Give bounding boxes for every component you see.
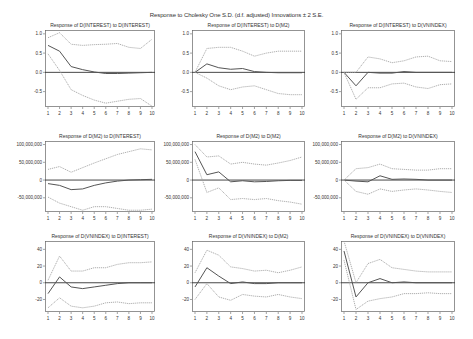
x-tick-label: 9: [139, 216, 142, 221]
x-tick-label: 1: [343, 111, 346, 116]
upper-band-line: [195, 47, 302, 72]
y-tick-label: 40: [333, 247, 339, 252]
panel-title: Response of D(M2) to D(VNINDEX): [341, 133, 455, 139]
x-tick-label: 7: [116, 316, 119, 321]
y-tick-label: 20: [184, 264, 190, 269]
y-tick-label: 0.0: [36, 70, 43, 75]
y-tick-label: 40: [184, 247, 190, 252]
x-tick-label: 8: [427, 111, 430, 116]
x-tick-label: 7: [265, 111, 268, 116]
plot-area: 100,000,00050,000,0000-50,000,0001234567…: [341, 141, 455, 224]
y-tick-label: 1.0: [332, 31, 339, 36]
y-tick-label: 100,000,000: [16, 142, 42, 147]
lower-band-line: [344, 260, 452, 309]
irf-panel-m2-m2: Response of D(M2) to D(M2)100,000,00050,…: [192, 133, 305, 224]
y-tick-label: -0.5: [34, 89, 42, 94]
x-tick-label: 8: [277, 316, 280, 321]
x-tick-label: 1: [343, 316, 346, 321]
y-tick-label: 0: [39, 178, 42, 183]
y-tick-label: 0.0: [183, 70, 190, 75]
irf-panel-vnindex-interest: Response of D(VNINDEX) to D(INTEREST)402…: [45, 233, 155, 324]
irf-panel-interest-m2: Response of D(INTEREST) to D(M2)1.00.50.…: [192, 22, 305, 119]
plot-frame: [46, 142, 155, 212]
y-tick-label: -50,000,000: [164, 195, 189, 200]
plot-frame: [193, 31, 305, 107]
y-tick-label: -0.5: [181, 89, 189, 94]
x-tick-label: 2: [355, 216, 358, 221]
y-tick-label: -20: [35, 297, 42, 302]
lower-band-line: [48, 298, 152, 308]
x-tick-label: 2: [206, 216, 209, 221]
x-tick-label: 6: [253, 111, 256, 116]
x-tick-label: 7: [265, 216, 268, 221]
y-tick-label: 20: [333, 264, 339, 269]
x-tick-label: 8: [128, 316, 131, 321]
irf-panel-vnindex-vnindex: Response of D(VNINDEX) to D(VNINDEX)4020…: [341, 233, 455, 324]
plot-area: 1.00.50.0-0.512345678910: [45, 30, 155, 119]
x-tick-label: 3: [70, 216, 73, 221]
x-tick-label: 9: [289, 111, 292, 116]
x-tick-label: 4: [229, 111, 232, 116]
x-tick-label: 6: [403, 111, 406, 116]
x-tick-label: 8: [277, 111, 280, 116]
x-tick-label: 9: [439, 111, 442, 116]
x-tick-label: 3: [217, 316, 220, 321]
x-tick-label: 4: [81, 111, 84, 116]
x-tick-label: 9: [439, 216, 442, 221]
x-tick-label: 10: [299, 216, 305, 221]
x-tick-label: 7: [116, 111, 119, 116]
x-tick-label: 7: [265, 316, 268, 321]
x-tick-label: 1: [194, 316, 197, 321]
x-tick-label: 3: [367, 216, 370, 221]
x-tick-label: 7: [415, 111, 418, 116]
x-tick-label: 5: [241, 216, 244, 221]
x-tick-label: 6: [104, 216, 107, 221]
plot-frame: [342, 31, 455, 107]
x-tick-label: 1: [47, 216, 50, 221]
main-title: Response to Cholesky One S.D. (d.f. adju…: [0, 12, 473, 18]
x-tick-label: 2: [206, 316, 209, 321]
upper-band-line: [344, 164, 452, 180]
lower-band-line: [344, 180, 452, 194]
response-line: [195, 64, 302, 73]
lower-band-line: [195, 284, 302, 301]
x-tick-label: 10: [149, 111, 155, 116]
x-tick-label: 4: [81, 216, 84, 221]
lower-band-line: [195, 72, 302, 94]
irf-panel-interest-vnindex: Response of D(INTEREST) to D(VNINDEX)1.0…: [341, 22, 455, 119]
upper-band-line: [48, 149, 152, 172]
x-tick-label: 9: [139, 111, 142, 116]
x-tick-label: 3: [367, 316, 370, 321]
x-tick-label: 9: [139, 316, 142, 321]
response-line: [195, 268, 302, 287]
x-tick-label: 7: [415, 216, 418, 221]
x-tick-label: 10: [449, 216, 455, 221]
x-tick-label: 10: [449, 316, 455, 321]
x-tick-label: 3: [217, 111, 220, 116]
y-tick-label: 20: [37, 264, 43, 269]
response-line: [48, 179, 152, 189]
upper-band-line: [195, 250, 302, 273]
x-tick-label: 6: [253, 316, 256, 321]
x-tick-label: 1: [47, 316, 50, 321]
x-tick-label: 1: [47, 111, 50, 116]
panel-title: Response of D(M2) to D(M2): [192, 133, 305, 139]
upper-band-line: [344, 56, 452, 72]
y-tick-label: 0.5: [332, 51, 339, 56]
x-tick-label: 3: [217, 216, 220, 221]
x-tick-label: 10: [299, 111, 305, 116]
response-line: [195, 152, 302, 182]
x-tick-label: 2: [58, 111, 61, 116]
panel-title: Response of D(INTEREST) to D(VNINDEX): [341, 22, 455, 28]
x-tick-label: 2: [355, 111, 358, 116]
x-tick-label: 5: [391, 111, 394, 116]
plot-area: 1.00.50.0-0.512345678910: [341, 30, 455, 119]
response-line: [48, 277, 152, 294]
x-tick-label: 8: [128, 111, 131, 116]
panel-title: Response of D(M2) to D(INTEREST): [45, 133, 155, 139]
plot-frame: [193, 142, 305, 212]
y-tick-label: 1.0: [183, 31, 190, 36]
plot-area: 1.00.50.0-0.512345678910: [192, 30, 305, 119]
x-tick-label: 4: [229, 316, 232, 321]
x-tick-label: 9: [289, 216, 292, 221]
